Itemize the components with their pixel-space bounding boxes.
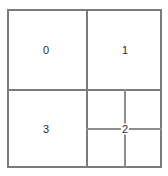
main-horizontal-divider <box>7 89 162 91</box>
partition-diagram: 0 1 2 3 <box>0 0 168 176</box>
cell-label-0: 0 <box>43 45 49 56</box>
cell-label-3: 3 <box>43 124 49 135</box>
cell-label-2: 2 <box>121 124 129 135</box>
cell-label-1: 1 <box>122 45 128 56</box>
